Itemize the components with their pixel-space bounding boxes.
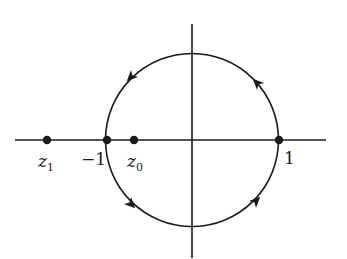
contour-diagram: z1 −1 z0 1 [0,0,347,259]
arrow-upper-left-icon [123,70,138,85]
point-z1 [43,136,51,144]
arrow-lower-right-icon [249,193,264,208]
label-z1: z1 [37,151,54,174]
label-minus-one: −1 [81,149,106,169]
point-one [275,136,283,144]
point-minus-one [103,136,111,144]
point-z0 [130,136,138,144]
label-one: 1 [284,148,295,168]
label-z0: z0 [126,151,143,174]
arrow-lower-left-icon [124,197,139,212]
